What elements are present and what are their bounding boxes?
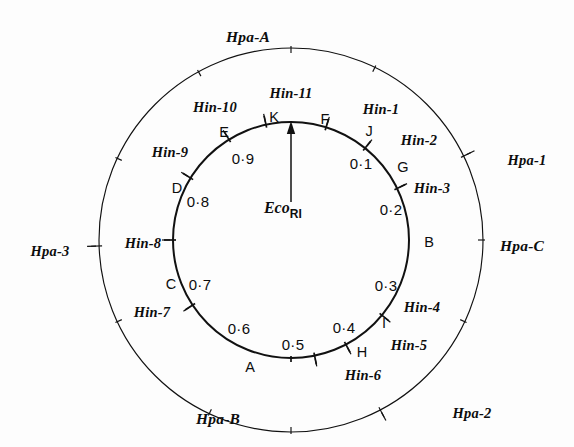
site-label-hin-1: Hin-1 bbox=[363, 102, 399, 117]
circular-restriction-map-figure: EcoRI Hin-1Hin-2Hin-3Hin-4Hin-5Hin-6Hin-… bbox=[0, 0, 574, 447]
site-label-hpa-2: Hpa-2 bbox=[453, 406, 492, 421]
leader-hin-6 bbox=[315, 359, 317, 367]
fragment-label-frag-h: H bbox=[357, 345, 367, 360]
site-label-hin-9: Hin-9 bbox=[152, 145, 188, 160]
fragment-label-frag-e: E bbox=[219, 125, 229, 140]
fragment-label-frag-a: A bbox=[245, 360, 255, 375]
fragment-label-frag-i: I bbox=[382, 316, 386, 331]
coordinate-label-coord-0-2: 0·2 bbox=[380, 202, 403, 217]
coordinate-label-coord-0-5: 0·5 bbox=[282, 337, 305, 352]
leader-hpa-2 bbox=[382, 413, 386, 421]
coordinate-label-coord-0-3: 0·3 bbox=[375, 278, 398, 293]
fragment-label-frag-d: D bbox=[172, 181, 182, 196]
region-label-hpa-b: Hpa-B bbox=[196, 411, 240, 427]
leader-hin-7 bbox=[183, 307, 190, 311]
leader-hin-5 bbox=[347, 347, 351, 354]
ecori-label: EcoRI bbox=[264, 200, 302, 219]
region-label-hpa-a: Hpa-A bbox=[226, 29, 270, 45]
coordinate-label-coord-0-8: 0·8 bbox=[187, 194, 210, 209]
fragment-label-frag-g: G bbox=[397, 160, 408, 175]
site-label-hin-2: Hin-2 bbox=[401, 133, 437, 148]
leader-hin-3 bbox=[400, 184, 407, 188]
site-label-hin-5: Hin-5 bbox=[391, 338, 427, 353]
site-label-hin-7: Hin-7 bbox=[134, 305, 170, 320]
map-canvas bbox=[0, 0, 574, 447]
site-label-hin-11: Hin-11 bbox=[269, 86, 312, 101]
coordinate-label-coord-0-4: 0·4 bbox=[333, 320, 356, 335]
coordinate-label-coord-0-1: 0·1 bbox=[350, 156, 373, 171]
site-label-hin-6: Hin-6 bbox=[345, 368, 381, 383]
ecori-label-subscript: RI bbox=[290, 207, 302, 221]
fragment-label-frag-f: F bbox=[321, 112, 330, 127]
ecori-label-main: Eco bbox=[264, 199, 290, 216]
site-label-hpa-1: Hpa-1 bbox=[508, 153, 547, 168]
coordinate-label-coord-0-9: 0·9 bbox=[232, 151, 255, 166]
ecori-arrow bbox=[287, 121, 295, 202]
site-label-hin-3: Hin-3 bbox=[414, 181, 450, 196]
leader-hpa-1 bbox=[466, 151, 474, 155]
site-label-hpa-3: Hpa-3 bbox=[31, 244, 70, 259]
fragment-label-frag-b: B bbox=[424, 235, 434, 250]
coordinate-label-coord-0-6: 0·6 bbox=[228, 321, 251, 336]
inner-ring-tick-group bbox=[164, 116, 405, 365]
region-label-hpa-c: Hpa-C bbox=[500, 238, 544, 254]
coordinate-label-coord-0-7: 0·7 bbox=[189, 277, 212, 292]
site-label-hin-10: Hin-10 bbox=[193, 100, 237, 115]
leader-hin-11 bbox=[264, 114, 266, 122]
leader-hin-9 bbox=[181, 172, 188, 176]
leader-line-group bbox=[87, 114, 474, 421]
fragment-label-frag-c: C bbox=[166, 277, 176, 292]
leader-hin-2 bbox=[367, 140, 372, 146]
site-label-hin-4: Hin-4 bbox=[404, 300, 440, 315]
fragment-label-frag-k: K bbox=[269, 110, 279, 125]
site-label-hin-8: Hin-8 bbox=[125, 236, 161, 251]
fragment-label-frag-j: J bbox=[365, 124, 372, 139]
